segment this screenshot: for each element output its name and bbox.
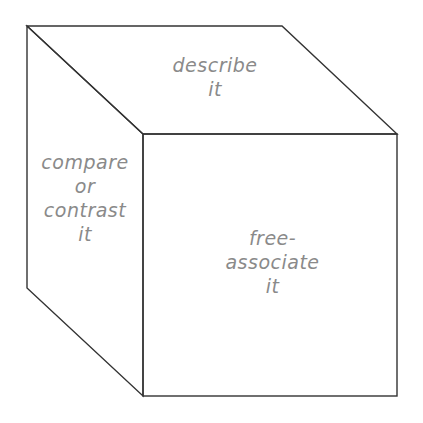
top-face-label: describe it <box>150 53 280 101</box>
top-line-2: it <box>150 77 280 101</box>
left-line-2: or <box>30 174 140 198</box>
top-line-1: describe <box>150 53 280 77</box>
front-line-2: associate <box>200 250 345 274</box>
left-line-4: it <box>30 222 140 246</box>
front-face-label: free- associate it <box>200 226 345 298</box>
left-face-label: compare or contrast it <box>30 150 140 246</box>
front-line-3: it <box>200 274 345 298</box>
left-line-3: contrast <box>30 198 140 222</box>
left-line-1: compare <box>30 150 140 174</box>
front-line-1: free- <box>200 226 345 250</box>
